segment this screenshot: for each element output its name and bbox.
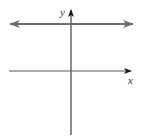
y-axis-label: y: [59, 6, 65, 18]
x-axis-label: x: [127, 74, 133, 86]
graph-figure: y x: [0, 0, 141, 137]
